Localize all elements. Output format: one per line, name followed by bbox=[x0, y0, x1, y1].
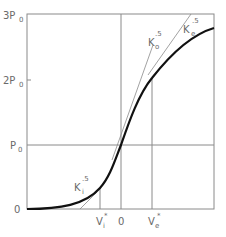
svg-text:.5: .5 bbox=[192, 17, 199, 25]
sigmoid-diagram: 3P 0 2P 0 P 0 0 V i * 0 V e * K o .5 K e… bbox=[0, 0, 226, 237]
svg-text:3P: 3P bbox=[3, 10, 15, 21]
x-tick-vi-star: V i * bbox=[96, 212, 108, 230]
svg-text:K: K bbox=[183, 24, 190, 35]
svg-text:*: * bbox=[157, 212, 161, 220]
svg-text:0: 0 bbox=[118, 216, 124, 227]
label-ko: K o .5 bbox=[148, 30, 162, 51]
y-tick-2p0: 2P 0 bbox=[3, 75, 23, 89]
y-tick-3p0: 3P 0 bbox=[3, 10, 23, 24]
svg-text:e: e bbox=[155, 222, 159, 230]
svg-text:K: K bbox=[148, 37, 155, 48]
svg-text:K: K bbox=[74, 182, 81, 193]
svg-text:i: i bbox=[82, 188, 84, 196]
svg-text:0: 0 bbox=[19, 81, 23, 89]
svg-text:i: i bbox=[103, 222, 105, 230]
y-tick-zero: 0 bbox=[14, 204, 20, 215]
y-tick-p0: P 0 bbox=[10, 140, 22, 154]
svg-text:0: 0 bbox=[18, 146, 22, 154]
svg-text:.5: .5 bbox=[155, 30, 162, 38]
svg-text:.5: .5 bbox=[82, 175, 89, 183]
x-tick-ve-star: V e * bbox=[148, 212, 161, 230]
tangent-ko bbox=[112, 45, 153, 160]
svg-text:0: 0 bbox=[19, 16, 23, 24]
svg-text:0: 0 bbox=[14, 204, 20, 215]
svg-text:P: P bbox=[10, 140, 16, 151]
svg-text:*: * bbox=[104, 212, 108, 220]
svg-text:V: V bbox=[148, 216, 155, 227]
svg-text:o: o bbox=[155, 43, 159, 51]
svg-text:V: V bbox=[96, 216, 103, 227]
label-ki: K i .5 bbox=[74, 175, 89, 196]
x-tick-zero: 0 bbox=[118, 216, 124, 227]
svg-text:e: e bbox=[191, 30, 195, 38]
svg-text:2P: 2P bbox=[3, 75, 15, 86]
